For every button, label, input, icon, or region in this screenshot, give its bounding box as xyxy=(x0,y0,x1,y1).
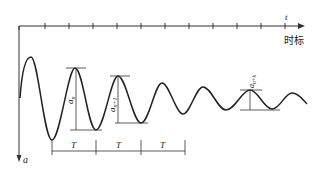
amplitude-axis-arrow-icon xyxy=(17,155,22,162)
oscillation-curve xyxy=(20,57,307,140)
time-axis xyxy=(19,23,305,30)
damped-oscillation-diagram: t 时标 a an an+1 an+k T T T xyxy=(0,0,323,173)
amplitude-ank-label: an+k xyxy=(247,75,257,88)
time-scale-caption: 时标 xyxy=(284,35,304,46)
period-label-3: T xyxy=(160,140,166,150)
period-label-2: T xyxy=(116,140,122,150)
amplitude-ank-marker xyxy=(240,90,280,110)
time-axis-label: t xyxy=(285,12,288,22)
amplitude-an-label: an xyxy=(65,97,76,105)
period-label-1: T xyxy=(71,140,77,150)
time-axis-arrow-icon xyxy=(298,23,305,29)
amplitude-axis-label: a xyxy=(23,154,28,165)
